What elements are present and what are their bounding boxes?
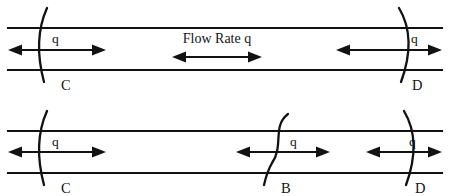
- q-label-c-top: q: [52, 31, 59, 46]
- q-label-b-bottom: q: [290, 134, 297, 149]
- bottom-pipe-group: [8, 111, 442, 185]
- flow-arrow-d-bottom: [366, 147, 442, 158]
- q-label-d-top: q: [411, 31, 418, 46]
- point-label-c-top: C: [61, 77, 71, 93]
- point-label-c-bottom: C: [61, 180, 71, 196]
- flow-arrow-c-top: [8, 45, 106, 56]
- boundary-curve-b-bottom: [264, 114, 288, 185]
- q-label-d-bottom: q: [409, 134, 416, 149]
- flow-rate-diagram: q q Flow Rate q C D q q q C B D: [0, 0, 450, 196]
- point-label-b-bottom: B: [281, 180, 291, 196]
- diagram-canvas: q q Flow Rate q C D q q q C B D: [0, 0, 450, 196]
- flow-rate-arrow: [172, 52, 262, 63]
- point-label-d-bottom: D: [415, 180, 425, 196]
- flow-arrow-d-top: [336, 45, 442, 56]
- flow-arrow-b-bottom: [236, 147, 330, 158]
- point-label-d-top: D: [412, 77, 422, 93]
- flow-rate-label: Flow Rate q: [183, 31, 251, 46]
- q-label-c-bottom: q: [52, 134, 59, 149]
